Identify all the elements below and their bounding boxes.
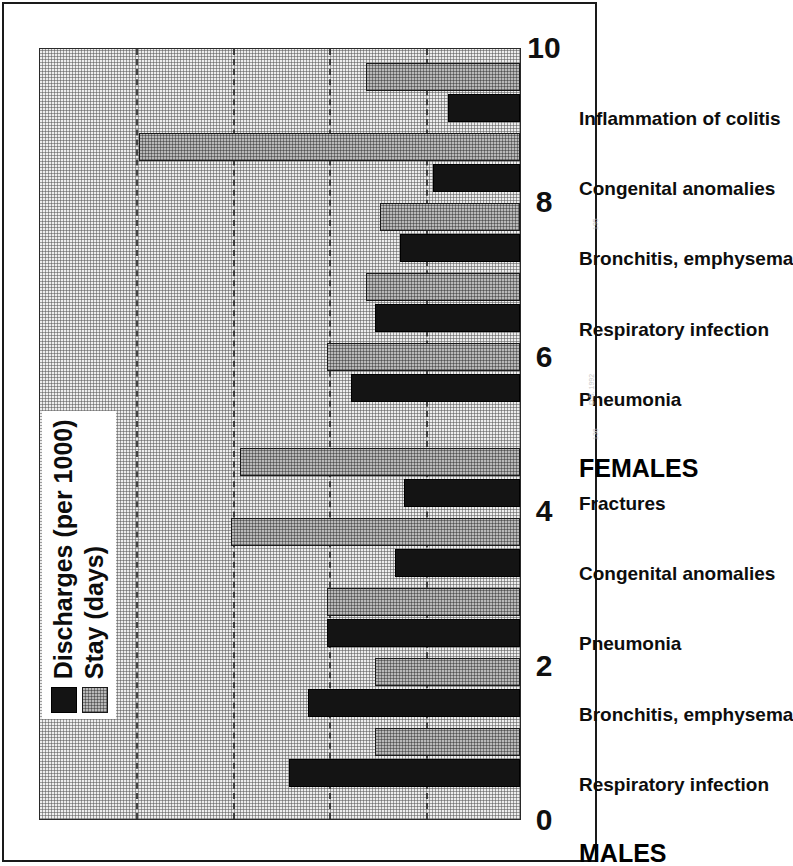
- category-label-4: Fractures: [579, 491, 666, 517]
- category-label-7: Bronchitis, emphysema: [579, 247, 793, 273]
- tick-label-6: 6: [518, 340, 570, 374]
- bar-stay-9: [365, 63, 519, 91]
- plot-area: Discharges (per 1000) Stay (days): [39, 48, 521, 820]
- category-label-9: Inflammation of colitis: [579, 106, 781, 132]
- bar-discharges-0: [288, 759, 519, 787]
- bar-stay-7: [380, 203, 520, 231]
- bar-stay-6: [365, 273, 519, 301]
- legend-label-stay: Stay (days): [81, 546, 108, 679]
- bar-discharges-6: [375, 304, 520, 332]
- bar-discharges-3: [394, 549, 519, 577]
- legend-label-discharges: Discharges (per 1000): [50, 419, 77, 679]
- tick-label-2: 2: [518, 649, 570, 683]
- legend: Discharges (per 1000) Stay (days): [42, 411, 116, 719]
- tick-label-10: 10: [518, 31, 570, 65]
- legend-swatch-stay-icon: [81, 687, 107, 713]
- bar-discharges-8: [433, 164, 520, 192]
- group-label-males: MALES: [579, 838, 667, 866]
- gridline-6: [232, 49, 234, 819]
- tick-label-8: 8: [518, 185, 570, 219]
- gridline-8: [136, 49, 138, 819]
- bar-discharges-9: [447, 94, 519, 122]
- category-label-0: Respiratory infection: [579, 772, 769, 798]
- bar-discharges-5: [351, 374, 520, 402]
- bar-stay-3: [230, 518, 519, 546]
- bar-discharges-1: [307, 689, 519, 717]
- category-label-6: Respiratory infection: [579, 317, 769, 343]
- scan-mark-0: 195: [592, 218, 599, 230]
- bar-stay-1: [375, 658, 520, 686]
- bar-stay-4: [240, 448, 520, 476]
- tick-label-0: 0: [518, 803, 570, 837]
- legend-item-stay: Stay (days): [81, 419, 108, 713]
- bar-stay-0: [375, 728, 520, 756]
- bar-stay-5: [327, 343, 520, 371]
- category-label-1: Bronchitis, emphysema: [579, 702, 793, 728]
- bar-stay-8: [139, 133, 520, 161]
- legend-item-discharges: Discharges (per 1000): [50, 419, 77, 713]
- bar-discharges-7: [399, 234, 520, 262]
- scan-mark-1: D.S. 1992: [588, 374, 595, 405]
- category-label-8: Congenital anomalies: [579, 176, 775, 202]
- group-label-females: FEMALES: [579, 453, 698, 483]
- bar-stay-2: [327, 588, 520, 616]
- legend-swatch-discharges-icon: [50, 687, 76, 713]
- bar-chart: Discharges (per 1000) Stay (days) 024681…: [21, 18, 581, 848]
- scan-mark-2: 136: [592, 428, 599, 440]
- bar-discharges-2: [327, 619, 520, 647]
- tick-label-4: 4: [518, 494, 570, 528]
- category-label-3: Congenital anomalies: [579, 561, 775, 587]
- category-label-2: Pneumonia: [579, 632, 681, 658]
- bar-discharges-4: [404, 479, 520, 507]
- rotated-chart-stage: Discharges (per 1000) Stay (days) 024681…: [21, 18, 581, 848]
